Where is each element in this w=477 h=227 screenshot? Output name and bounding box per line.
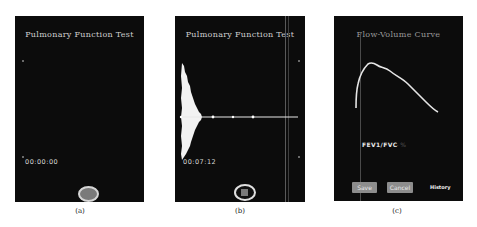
fev1-fvc-value: -- % (394, 141, 406, 148)
fev1-fvc-label: FEV1/FVC (362, 141, 398, 148)
save-button[interactable]: Save (352, 182, 377, 193)
elapsed-timer: 00:07:12 (183, 158, 216, 166)
record-start-button[interactable] (78, 186, 99, 202)
caption-b: (b) (230, 207, 250, 215)
screen-idle: Pulmonary Function Test 00:00:00 (15, 16, 144, 202)
caption-c: (c) (387, 207, 407, 215)
elapsed-timer: 00:00:00 (25, 158, 58, 166)
stop-icon (241, 189, 248, 196)
screen-recording: Pulmonary Function Test 00:07:12 (175, 16, 305, 202)
history-link[interactable]: History (430, 184, 450, 190)
waveform-chart (175, 16, 305, 202)
flow-volume-curve (334, 16, 463, 201)
screen-results: Flow-Volume Curve FEV1/FVC -- % Save Can… (334, 16, 463, 201)
app-title: Pulmonary Function Test (15, 30, 144, 39)
cancel-button[interactable]: Cancel (387, 182, 413, 193)
axis-marker-top (22, 60, 24, 62)
record-stop-button[interactable] (234, 184, 256, 201)
axis-marker-bottom (22, 156, 24, 158)
caption-a: (a) (70, 207, 90, 215)
